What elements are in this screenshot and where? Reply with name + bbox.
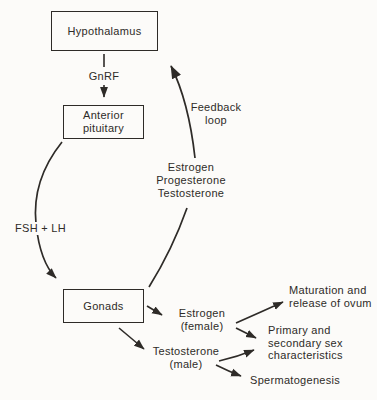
- maturation-ovum-line2: release of ovum: [289, 297, 372, 310]
- testosterone-male-line1: Testosterone: [153, 345, 220, 358]
- testosterone-sex-characteristics-arrow: [219, 350, 254, 361]
- hypothalamus-label: Hypothalamus: [68, 25, 142, 38]
- gnrf-label: GnRF: [89, 70, 120, 83]
- hypothalamus-node: Hypothalamus: [51, 11, 158, 51]
- testosterone-male-label: Testosterone (male): [153, 345, 220, 371]
- sex-characteristics-line2: secondary sex: [268, 337, 343, 350]
- estrogen-sex-characteristics-arrow: [236, 328, 256, 338]
- gonads-estrogen-arrow: [147, 306, 162, 315]
- feedback-hormones-line1: Estrogen: [156, 161, 226, 174]
- maturation-ovum-label: Maturation and release of ovum: [289, 284, 372, 309]
- testosterone-male-line2: (male): [153, 358, 220, 371]
- estrogen-female-line1: Estrogen: [179, 307, 225, 320]
- feedback-hormones-line2: Progesterone: [156, 174, 226, 187]
- anterior-pituitary-node: Anterior pituitary: [63, 105, 144, 139]
- sex-characteristics-line1: Primary and: [268, 324, 343, 337]
- gonads-node: Gonads: [63, 289, 144, 323]
- gonads-testosterone-arrow: [119, 328, 144, 349]
- maturation-ovum-line1: Maturation and: [289, 284, 372, 297]
- sex-characteristics-line3: characteristics: [268, 349, 343, 362]
- fsh-lh-arc-arrow: [35, 142, 62, 278]
- hormone-feedback-diagram: Hypothalamus Anterior pituitary Gonads G…: [0, 0, 377, 400]
- testosterone-spermatogenesis-arrow: [216, 365, 241, 376]
- feedback-loop-label-line1: Feedback: [191, 101, 242, 114]
- feedback-hormones-label: Estrogen Progesterone Testosterone: [156, 161, 226, 200]
- feedback-hormones-line3: Testosterone: [156, 187, 226, 200]
- gonads-label: Gonads: [83, 300, 123, 313]
- anterior-pituitary-label-line1: Anterior: [83, 109, 124, 122]
- spermatogenesis-label: Spermatogenesis: [250, 374, 340, 387]
- feedback-loop-label: Feedback loop: [191, 101, 242, 127]
- gonads-hormone-curve: [149, 208, 187, 287]
- estrogen-maturation-arrow: [236, 302, 283, 323]
- sex-characteristics-label: Primary and secondary sex characteristic…: [268, 324, 343, 362]
- anterior-pituitary-label-line2: pituitary: [83, 122, 124, 135]
- estrogen-female-line2: (female): [179, 320, 225, 333]
- estrogen-female-label: Estrogen (female): [179, 307, 225, 333]
- fsh-lh-label: FSH + LH: [13, 222, 68, 235]
- feedback-loop-label-line2: loop: [191, 114, 242, 127]
